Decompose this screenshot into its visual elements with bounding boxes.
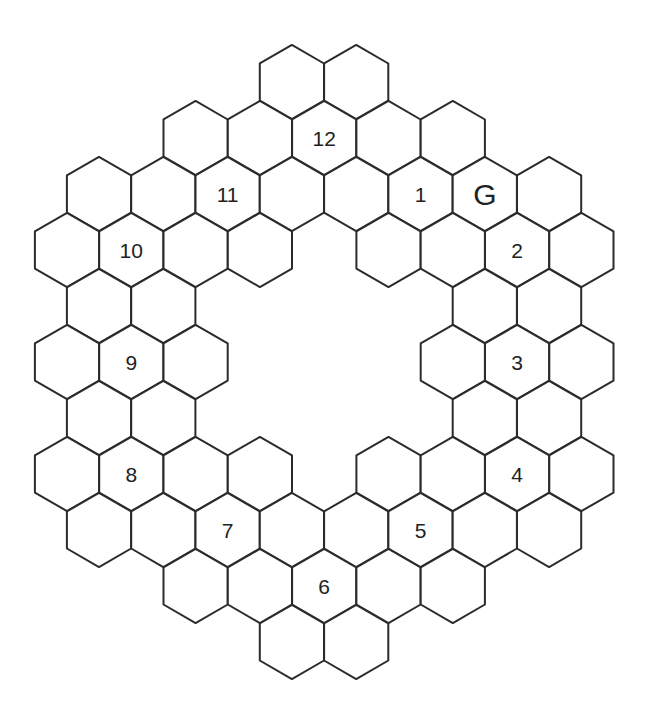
hex-number-label: 11 [217, 183, 239, 206]
hex-number-label: 9 [125, 351, 137, 374]
hex-number-label: 8 [125, 463, 137, 486]
hex-number-label: 3 [511, 351, 523, 374]
hex-number-label: 2 [511, 239, 523, 262]
hex-number-label: 4 [511, 463, 523, 486]
hex-number-label: 7 [222, 519, 234, 542]
hex-number-label: 5 [415, 519, 427, 542]
goal-label: G [473, 178, 496, 211]
hex-number-label: 1 [415, 183, 427, 206]
hex-board: 121G234567891011 [0, 0, 651, 716]
hex-number-label: 12 [313, 127, 336, 150]
hex-number-label: 6 [318, 575, 330, 598]
hex-number-label: 10 [120, 239, 143, 262]
